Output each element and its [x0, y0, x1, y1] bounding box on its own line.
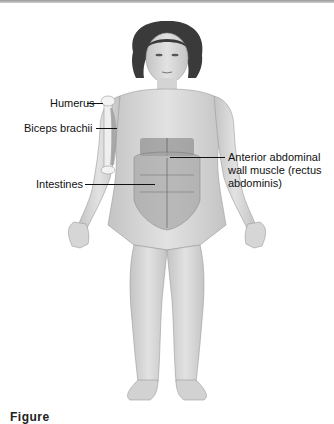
label-biceps-brachii: Biceps brachii	[24, 122, 92, 135]
biceps-brachii-leader-line	[96, 128, 117, 129]
left-leg	[167, 245, 204, 382]
left-hand	[245, 222, 265, 248]
right-foot	[128, 380, 158, 400]
left-foot	[176, 380, 206, 400]
right-leg	[130, 245, 167, 382]
figure-caption: Figure	[10, 410, 50, 424]
head	[146, 33, 188, 83]
label-anterior-abdominal-wall: Anterior abdominal wall muscle (rectus a…	[228, 151, 334, 190]
right-hand	[68, 222, 88, 248]
label-intestines: Intestines	[36, 178, 83, 191]
label-humerus: Humerus	[50, 97, 95, 110]
anterior-abdominal-wall-leader-line	[170, 157, 225, 158]
intestines-leader-line	[85, 184, 155, 185]
